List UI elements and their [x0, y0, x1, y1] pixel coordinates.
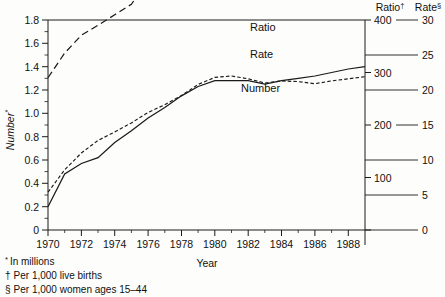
series-line-ratio: [48, 0, 365, 78]
x-axis-title: Year: [196, 257, 218, 269]
series-label-ratio: Ratio: [250, 21, 276, 33]
x-tick-label-1974: 1974: [103, 238, 127, 250]
left-tick-label-0-8: 0.8: [24, 131, 39, 143]
left-tick-label-0-6: 0.6: [24, 154, 39, 166]
data-series-group: [48, 0, 365, 207]
x-tick-label-1986: 1986: [303, 238, 327, 250]
footnote-2: §Per 1,000 women ages 15–44: [5, 284, 147, 295]
rate-tick-label-30: 30: [422, 14, 434, 26]
series-label-rate: Rate: [250, 48, 273, 60]
footnotes-group: *In millions †Per 1,000 live births §Per…: [5, 255, 147, 295]
x-tick-label-1984: 1984: [270, 238, 294, 250]
ratio-tick-label-200: 200: [374, 119, 392, 131]
left-minor-ticks: [45, 32, 49, 219]
footnote-0: *In millions: [5, 255, 54, 267]
rate-tick-label-15: 15: [422, 119, 434, 131]
plot-frame: [48, 20, 365, 245]
y-axis-title-group: Number*: [3, 109, 16, 150]
chart-figure: 1.8 1.6 1.4 1.2 1.0 0.8 0.6 0.4 0.2 0 Nu…: [0, 0, 445, 297]
rate-tick-label-5: 5: [422, 189, 428, 201]
left-axis-ticks: 1.8 1.6 1.4 1.2 1.0 0.8 0.6 0.4 0.2 0: [24, 14, 48, 236]
left-tick-label-1-8: 1.8: [24, 14, 39, 26]
ratio-tick-label-100: 100: [374, 172, 392, 184]
series-labels: Ratio Rate Number: [241, 21, 280, 94]
left-tick-label-1-4: 1.4: [24, 61, 39, 73]
x-tick-label-1970: 1970: [36, 238, 60, 250]
series-label-number: Number: [241, 82, 280, 94]
x-tick-label-1988: 1988: [337, 238, 361, 250]
left-tick-label-1-0: 1.0: [24, 107, 39, 119]
rate-tick-label-25: 25: [422, 49, 434, 61]
left-tick-label-0-2: 0.2: [24, 201, 39, 213]
left-tick-label-1-6: 1.6: [24, 37, 39, 49]
ratio-tick-label-300: 300: [374, 67, 392, 79]
series-line-rate: [48, 76, 365, 192]
x-tick-label-1976: 1976: [136, 238, 160, 250]
series-line-number: [48, 67, 365, 207]
x-tick-label-1980: 1980: [203, 238, 227, 250]
ratio-axis-header: Ratio†: [376, 1, 405, 14]
x-tick-label-1978: 1978: [170, 238, 194, 250]
rate-tick-label-10: 10: [422, 154, 434, 166]
left-tick-label-0-4: 0.4: [24, 177, 39, 189]
rate-tick-label-20: 20: [422, 84, 434, 96]
rate-tick-label-0: 0: [422, 224, 428, 236]
x-tick-label-1972: 1972: [70, 238, 94, 250]
ratio-axis: 400 300 200 100 Ratio†: [365, 1, 404, 231]
left-tick-label-1-2: 1.2: [24, 84, 39, 96]
left-tick-label-0: 0: [33, 224, 39, 236]
x-tick-label-1982: 1982: [237, 238, 261, 250]
rate-axis-header: Rate§: [415, 1, 441, 14]
footnote-1: †Per 1,000 live births: [5, 270, 102, 281]
ratio-tick-label-400: 400: [374, 14, 392, 26]
x-axis-ticks: 1970 1972 1974 1976 1978 1980 1982 1984 …: [36, 230, 360, 269]
chart-svg: 1.8 1.6 1.4 1.2 1.0 0.8 0.6 0.4 0.2 0 Nu…: [0, 0, 445, 297]
y-axis-title: Number*: [3, 109, 16, 150]
